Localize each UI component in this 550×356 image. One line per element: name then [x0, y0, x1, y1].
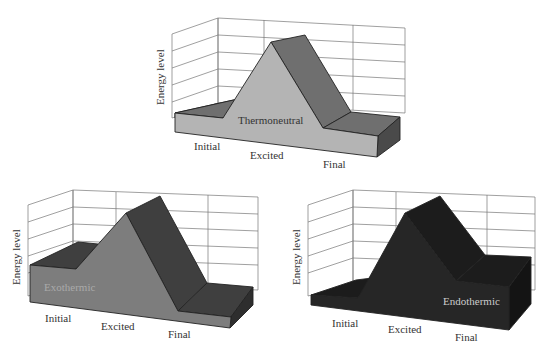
chart-label: Exothermic	[44, 281, 95, 293]
chart-label: Endothermic	[443, 295, 500, 307]
chart-thermoneutral: Thermoneutral Initial Excited Final Ener…	[154, 18, 405, 170]
x-label-final: Final	[323, 158, 346, 170]
energy-diagrams: Thermoneutral Initial Excited Final Ener…	[0, 0, 550, 356]
x-label-initial: Initial	[332, 317, 358, 329]
y-axis-label: Energy level	[10, 229, 22, 285]
x-label-excited: Excited	[101, 320, 135, 332]
y-axis-label: Energy level	[290, 229, 302, 285]
x-label-final: Final	[455, 331, 478, 343]
x-label-initial: Initial	[45, 312, 71, 324]
y-axis-label: Energy level	[154, 49, 166, 105]
x-label-excited: Excited	[388, 323, 422, 335]
chart-label: Thermoneutral	[238, 114, 303, 126]
x-label-excited: Excited	[250, 149, 284, 161]
chart-exothermic: Exothermic Initial Excited Final Energy …	[10, 190, 258, 340]
chart-endothermic: Endothermic Initial Excited Final Energy…	[290, 190, 535, 343]
side-wall	[172, 18, 218, 118]
x-label-final: Final	[168, 328, 191, 340]
x-label-initial: Initial	[194, 140, 220, 152]
